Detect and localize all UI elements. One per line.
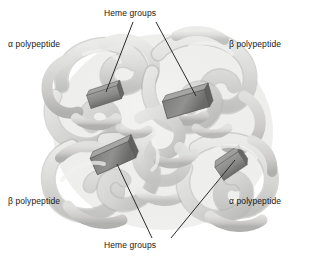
leader-line-heme-bottom-left [117, 164, 152, 238]
leader-line-heme-top-left [106, 22, 133, 92]
hemoglobin-figure: Heme groups Heme groups α polypeptide β … [0, 0, 325, 263]
label-alpha-polypeptide-bottom-right: α polypeptide [229, 196, 281, 206]
label-heme-groups-bottom: Heme groups [104, 240, 156, 250]
label-beta-polypeptide-top-right: β polypeptide [229, 39, 281, 49]
label-beta-polypeptide-bottom-left: β polypeptide [8, 196, 60, 206]
label-alpha-polypeptide-top-left: α polypeptide [8, 39, 60, 49]
leader-line-heme-bottom-right [171, 160, 235, 238]
label-heme-groups-top: Heme groups [104, 8, 156, 18]
leader-line-heme-top-right [156, 22, 196, 96]
